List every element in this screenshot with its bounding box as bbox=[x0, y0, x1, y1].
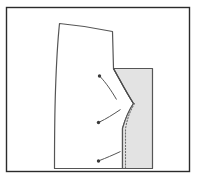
leader-dot-upper bbox=[98, 74, 101, 77]
leader-dot-lower bbox=[97, 159, 100, 162]
leader-dot-middle bbox=[97, 121, 100, 124]
pattern-diagram-svg bbox=[0, 0, 200, 181]
illustration-canvas bbox=[0, 0, 200, 181]
